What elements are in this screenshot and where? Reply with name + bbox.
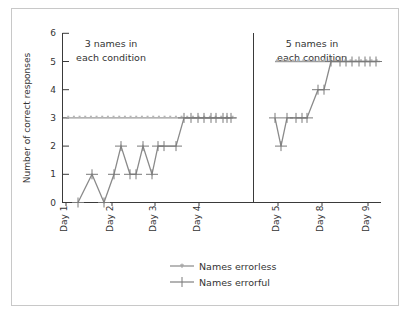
series-left-errorful [72,113,237,208]
y-tick-label: 5 [50,57,56,67]
x-tick-day2: Day 2 [105,206,115,232]
series-right-errorful [269,57,382,152]
y-tick-label: 6 [50,28,56,38]
y-tick-label: 1 [50,169,56,179]
y-tick-label: 3 [50,113,56,123]
x-tick-day3: Day 3 [148,206,158,232]
left-panel-title-line1: 3 names in [85,38,138,49]
x-tick-day5: Day 5 [271,206,281,232]
chart-figure: Number of correct responses 0123456 3 na… [0,0,414,320]
x-tick-day4: Day 4 [192,205,202,232]
right-panel-title-line1: 5 names in [286,38,339,49]
y-axis-label: Number of correct responses [22,52,32,183]
legend-label-errorless: Names errorless [199,261,276,272]
legend-item-errorless: Names errorless [170,261,276,272]
legend: Names errorless Names errorful [170,261,276,288]
legend-label-errorful: Names errorful [199,277,270,288]
left-panel-title-line2: each condition [76,52,146,63]
x-tick-labels: Day 1 Day 2 Day 3 Day 4 Day 5 Day 8 Day … [59,205,371,232]
x-tick-day1: Day 1 [59,206,69,232]
y-tick-label: 4 [50,85,56,95]
x-tick-day8: Day 8 [315,205,325,232]
y-tick-label: 0 [50,198,56,208]
legend-item-errorful: Names errorful [170,277,270,288]
x-tick-day9: Day 9 [361,205,371,232]
y-tick-label: 2 [50,141,56,151]
